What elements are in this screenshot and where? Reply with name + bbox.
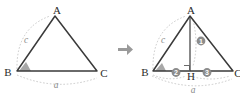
side-label-c-right: c [161,35,166,45]
vertex-label-c-right: C [234,67,240,79]
segment-marker-2: 2 [172,68,181,77]
arc-segment-2 [153,75,186,79]
angle-b-marker-right [155,63,166,71]
triangle-outline-left [17,16,97,71]
vertex-label-a-left: A [53,4,61,16]
segment-marker-1-label: 1 [199,38,203,45]
arc-segment-3 [190,76,230,79]
vertex-label-h-right: H [187,70,195,82]
segment-marker-3: 3 [203,68,212,77]
left-triangle-group: A B C c a [4,4,107,90]
segment-marker-1: 1 [197,37,206,46]
right-triangle-group: 1 2 3 A B C H c a [141,4,240,95]
arc-side-c-left [17,16,50,69]
arc-side-c-right [153,16,186,69]
segment-marker-2-label: 2 [174,69,178,76]
transform-arrow-glyph [118,44,133,55]
side-label-a-left: a [54,80,59,90]
vertex-label-c-left: C [100,67,107,79]
geometry-diagram: A B C c a [0,0,240,99]
vertex-label-a-right: A [187,4,195,16]
arc-segment-1 [193,20,196,66]
geometry-figure-root: A B C c a [0,0,240,99]
side-label-a-right: a [191,85,196,95]
segment-marker-3-label: 3 [205,69,209,76]
vertex-label-b-right: B [141,66,148,78]
vertex-label-b-left: B [4,66,11,78]
side-label-c-left: c [24,35,29,45]
transform-arrow [118,44,133,55]
